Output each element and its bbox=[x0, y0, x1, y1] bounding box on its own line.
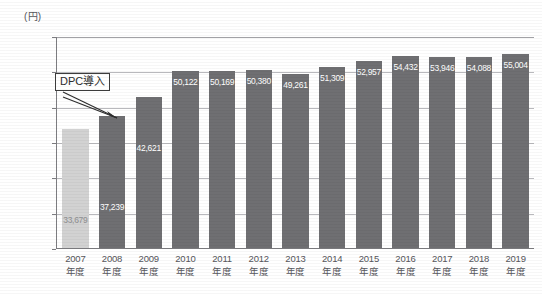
bar-2015: 52,957 bbox=[356, 61, 382, 248]
bar-2017: 53,946 bbox=[429, 57, 455, 248]
x-axis-label-2018: 2018年度 bbox=[461, 252, 498, 278]
bar-value-label: 51,309 bbox=[319, 73, 345, 83]
x-axis-year: 2009 bbox=[130, 252, 167, 265]
bar-slot: 53,946 bbox=[424, 37, 461, 248]
x-axis-year-suffix: 年度 bbox=[424, 265, 461, 278]
bar-2010: 50,122 bbox=[172, 71, 198, 248]
bar-slot: 37,239 bbox=[94, 37, 131, 248]
bar-value-label: 49,261 bbox=[282, 80, 308, 90]
bar-value-label: 50,169 bbox=[209, 77, 235, 87]
bar-slot: 50,380 bbox=[240, 37, 277, 248]
bar-slot: 52,957 bbox=[351, 37, 388, 248]
x-axis-year-suffix: 年度 bbox=[497, 265, 534, 278]
bar-slot: 55,004 bbox=[497, 37, 534, 248]
x-axis-year-suffix: 年度 bbox=[94, 265, 131, 278]
x-axis-year-suffix: 年度 bbox=[167, 265, 204, 278]
x-axis-year-suffix: 年度 bbox=[240, 265, 277, 278]
x-axis-label-2007: 2007年度 bbox=[57, 252, 94, 278]
bar-2012: 50,380 bbox=[246, 70, 272, 248]
x-axis-label-2015: 2015年度 bbox=[351, 252, 388, 278]
x-axis-year: 2010 bbox=[167, 252, 204, 265]
x-axis-year: 2014 bbox=[314, 252, 351, 265]
x-axis-year: 2017 bbox=[424, 252, 461, 265]
bar-value-label: 53,946 bbox=[429, 63, 455, 73]
x-axis-year-suffix: 年度 bbox=[277, 265, 314, 278]
bar-chart: (円) 60,00050,00040,00030,00020,00010,000… bbox=[0, 0, 542, 294]
x-axis-year-suffix: 年度 bbox=[314, 265, 351, 278]
x-axis-year: 2019 bbox=[497, 252, 534, 265]
bar-slot: 54,088 bbox=[461, 37, 498, 248]
y-axis-unit-label: (円) bbox=[24, 8, 41, 23]
bar-slot: 54,432 bbox=[387, 37, 424, 248]
x-axis-year: 2018 bbox=[461, 252, 498, 265]
x-axis-label-2008: 2008年度 bbox=[94, 252, 131, 278]
bar-value-label: 42,621 bbox=[136, 143, 162, 153]
dpc-annotation-label: DPC導入 bbox=[55, 73, 110, 91]
x-axis-line bbox=[56, 248, 534, 249]
x-axis-year-suffix: 年度 bbox=[387, 265, 424, 278]
x-axis-label-2014: 2014年度 bbox=[314, 252, 351, 278]
bar-2007: 33,679 bbox=[62, 129, 88, 248]
x-axis-year: 2011 bbox=[204, 252, 241, 265]
x-axis-year: 2013 bbox=[277, 252, 314, 265]
bar-value-label: 54,088 bbox=[466, 63, 492, 73]
x-axis-label-2017: 2017年度 bbox=[424, 252, 461, 278]
x-axis-year-suffix: 年度 bbox=[461, 265, 498, 278]
x-axis-label-2013: 2013年度 bbox=[277, 252, 314, 278]
x-axis-year: 2015 bbox=[351, 252, 388, 265]
x-axis-year: 2008 bbox=[94, 252, 131, 265]
bar-2019: 55,004 bbox=[502, 54, 528, 248]
bar-2008: 37,239 bbox=[99, 116, 125, 248]
bar-value-label: 33,679 bbox=[62, 215, 88, 225]
y-axis-tick-mark bbox=[52, 249, 56, 250]
x-axis-year: 2007 bbox=[57, 252, 94, 265]
x-axis-label-2012: 2012年度 bbox=[240, 252, 277, 278]
x-axis-label-2009: 2009年度 bbox=[130, 252, 167, 278]
bar-slot: 33,679 bbox=[57, 37, 94, 248]
x-axis-year-suffix: 年度 bbox=[204, 265, 241, 278]
x-axis-labels: 2007年度2008年度2009年度2010年度2011年度2012年度2013… bbox=[57, 252, 534, 278]
bar-2014: 51,309 bbox=[319, 67, 345, 248]
bar-value-label: 37,239 bbox=[99, 202, 125, 212]
x-axis-year-suffix: 年度 bbox=[130, 265, 167, 278]
plot-area: 60,00050,00040,00030,00020,00010,0000 33… bbox=[56, 37, 534, 249]
x-axis-year-suffix: 年度 bbox=[351, 265, 388, 278]
x-axis-year-suffix: 年度 bbox=[57, 265, 94, 278]
bar-slot: 50,122 bbox=[167, 37, 204, 248]
x-axis-label-2011: 2011年度 bbox=[204, 252, 241, 278]
x-axis-year: 2016 bbox=[387, 252, 424, 265]
bar-value-label: 50,380 bbox=[246, 76, 272, 86]
bar-slot: 51,309 bbox=[314, 37, 351, 248]
x-axis-year: 2012 bbox=[240, 252, 277, 265]
bar-value-label: 54,432 bbox=[392, 62, 418, 72]
bar-value-label: 50,122 bbox=[172, 77, 198, 87]
x-axis-label-2019: 2019年度 bbox=[497, 252, 534, 278]
bar-value-label: 55,004 bbox=[502, 60, 528, 70]
bar-2013: 49,261 bbox=[282, 74, 308, 248]
bar-2009: 42,621 bbox=[136, 97, 162, 248]
bar-value-label: 52,957 bbox=[356, 67, 382, 77]
bar-series: 33,67937,23942,62150,12250,16950,38049,2… bbox=[57, 37, 534, 248]
bar-slot: 42,621 bbox=[130, 37, 167, 248]
x-axis-label-2010: 2010年度 bbox=[167, 252, 204, 278]
bar-2011: 50,169 bbox=[209, 71, 235, 248]
x-axis-label-2016: 2016年度 bbox=[387, 252, 424, 278]
bar-slot: 49,261 bbox=[277, 37, 314, 248]
bar-2016: 54,432 bbox=[392, 56, 418, 248]
bar-slot: 50,169 bbox=[204, 37, 241, 248]
bar-2018: 54,088 bbox=[466, 57, 492, 248]
